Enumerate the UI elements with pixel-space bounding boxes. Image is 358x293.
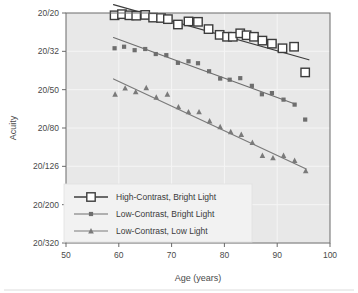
legend-label-2: Low-Contrast, Bright Light bbox=[116, 209, 215, 219]
data-point-filled-square bbox=[154, 52, 158, 56]
data-point-open-square bbox=[87, 193, 95, 201]
xtick-label: 80 bbox=[220, 250, 230, 260]
ytick-label: 20/200 bbox=[33, 200, 59, 210]
data-point-filled-square bbox=[228, 78, 232, 82]
data-point-filled-square bbox=[186, 59, 190, 63]
data-point-filled-square bbox=[112, 46, 116, 50]
legend-marker-2 bbox=[89, 212, 93, 216]
ytick-label: 20/50 bbox=[38, 85, 60, 95]
data-point-filled-square bbox=[281, 98, 285, 102]
data-point-filled-square bbox=[176, 61, 180, 65]
legend-marker-1 bbox=[87, 193, 95, 201]
xtick-label: 60 bbox=[114, 250, 124, 260]
data-point-filled-square bbox=[164, 53, 168, 57]
data-point-filled-square bbox=[196, 61, 200, 65]
data-point-filled-square bbox=[218, 76, 222, 80]
xtick-label: 70 bbox=[167, 250, 177, 260]
data-point-filled-square bbox=[293, 103, 297, 107]
data-point-open-square bbox=[250, 33, 258, 41]
acuity-vs-age-chart: 506070809010020/2020/3220/5020/8020/1262… bbox=[0, 0, 358, 293]
ytick-label: 20/32 bbox=[38, 46, 60, 56]
data-point-open-square bbox=[204, 25, 212, 33]
y-axis-title: Acuity bbox=[8, 115, 18, 140]
data-point-open-square bbox=[184, 17, 192, 25]
data-point-open-square bbox=[258, 36, 266, 44]
ytick-label: 20/20 bbox=[38, 8, 60, 18]
data-point-open-square bbox=[141, 11, 149, 19]
data-point-filled-square bbox=[238, 76, 242, 80]
data-point-filled-square bbox=[303, 117, 307, 121]
data-point-open-square bbox=[278, 44, 286, 52]
data-point-open-square bbox=[290, 43, 298, 51]
data-point-filled-square bbox=[250, 84, 254, 88]
data-point-filled-square bbox=[207, 69, 211, 73]
data-point-open-square bbox=[194, 18, 202, 26]
ytick-label: 20/80 bbox=[38, 123, 60, 133]
legend: High-Contrast, Bright LightLow-Contrast,… bbox=[64, 184, 252, 242]
xtick-label: 90 bbox=[272, 250, 282, 260]
data-point-filled-square bbox=[133, 48, 137, 52]
data-point-filled-square bbox=[89, 212, 93, 216]
chart-canvas: 506070809010020/2020/3220/5020/8020/1262… bbox=[0, 0, 358, 293]
data-point-filled-square bbox=[122, 45, 126, 49]
data-point-open-square bbox=[268, 39, 276, 47]
data-point-open-square bbox=[301, 68, 309, 76]
data-point-open-square bbox=[174, 20, 182, 28]
x-axis-title: Age (years) bbox=[175, 273, 222, 283]
data-point-filled-square bbox=[270, 91, 274, 95]
legend-label-1: High-Contrast, Bright Light bbox=[116, 192, 217, 202]
data-point-open-square bbox=[164, 15, 172, 23]
ytick-label: 20/320 bbox=[33, 238, 59, 248]
data-point-filled-square bbox=[143, 47, 147, 51]
data-point-open-square bbox=[149, 13, 157, 21]
legend-label-3: Low-Contrast, Low Light bbox=[116, 226, 208, 236]
ytick-label: 20/126 bbox=[33, 161, 59, 171]
xtick-label: 100 bbox=[323, 250, 337, 260]
xtick-label: 50 bbox=[61, 250, 71, 260]
data-point-filled-square bbox=[260, 92, 264, 96]
